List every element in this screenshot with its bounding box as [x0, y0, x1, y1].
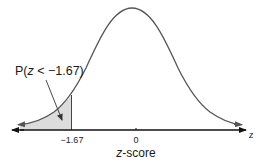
tick-label-zero: 0 — [133, 136, 138, 145]
shaded-tail-region — [20, 95, 72, 130]
tick-label-cutoff: −1.67 — [61, 136, 84, 145]
axis-variable-label: z — [249, 129, 253, 140]
annotation-suffix: < −1.67) — [34, 64, 84, 78]
normal-distribution-diagram — [0, 0, 263, 164]
probability-annotation: P(z < −1.67) — [15, 65, 84, 78]
x-axis-title-suffix: -score — [122, 146, 155, 160]
x-axis-title: z-score — [116, 147, 155, 159]
annotation-prefix: P( — [15, 64, 28, 78]
